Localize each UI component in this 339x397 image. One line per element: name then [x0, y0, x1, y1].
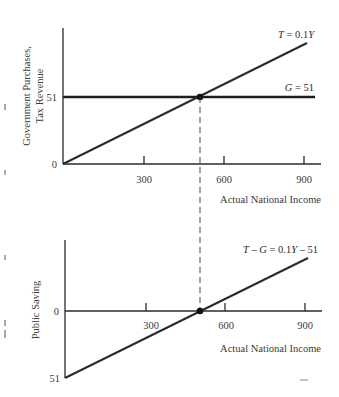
bottom-y-tick-label-0: 0 [54, 306, 59, 317]
top-panel: 300 600 900 0 51 Government Purchases, T… [21, 28, 321, 205]
bottom-x-axis-title: Actual National Income [220, 343, 321, 354]
top-y-axis-title-line1: Government Purchases, [21, 46, 32, 146]
top-y-tick-label-0: 0 [52, 159, 57, 170]
tax-line-label: T = 0.1Y [278, 29, 315, 40]
bottom-panel: 300 600 900 0 51 Public Saving Actual Na… [30, 240, 322, 384]
bottom-x-tick-label-300: 300 [143, 320, 159, 331]
public-saving-label: T – G = 0.1Y – 51 [243, 244, 318, 255]
bottom-y-tick-label-neg51: 51 [50, 373, 61, 384]
top-y-tick-label-51: 51 [47, 92, 58, 103]
top-x-axis-title: Actual National Income [220, 194, 321, 205]
bottom-x-tick-label-600: 600 [218, 320, 234, 331]
top-x-tick-label-900: 900 [296, 174, 312, 185]
top-y-axis-title-line2: Tax Revenue [34, 68, 45, 123]
bottom-y-axis-title: Public Saving [30, 280, 41, 339]
bottom-x-tick-label-900: 900 [297, 320, 313, 331]
tax-revenue-line [63, 43, 307, 164]
top-x-tick-label-300: 300 [136, 174, 152, 185]
public-saving-line [65, 258, 308, 378]
bottom-intersection-point [197, 308, 204, 315]
top-x-tick-label-600: 600 [216, 174, 232, 185]
fiscal-policy-diagram: 300 600 900 0 51 Government Purchases, T… [0, 0, 339, 397]
gov-line-label: G = 51 [285, 82, 314, 93]
